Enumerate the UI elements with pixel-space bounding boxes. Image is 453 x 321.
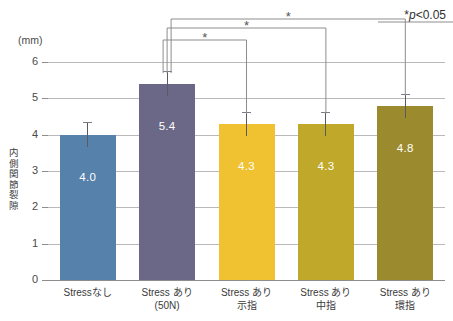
error-bar-stem-2 (167, 71, 168, 96)
y-tick-mark-6 (42, 62, 48, 63)
y-tick-mark-4 (42, 135, 48, 136)
error-bar-cap-1 (83, 122, 92, 123)
x-category-label-2-line1: Stress あり (142, 287, 193, 298)
x-category-label-4-line1: Stress あり (300, 287, 351, 298)
bar-2[interactable]: 5.4 (139, 84, 195, 280)
error-bar-stem-4 (325, 112, 326, 136)
y-tick-mark-2 (42, 207, 48, 208)
x-category-label-3-line1: Stress あり (221, 287, 272, 298)
y-tick-mark-1 (42, 244, 48, 245)
error-bar-cap-5 (401, 94, 410, 95)
bar-value-label-5: 4.8 (377, 142, 433, 154)
error-bar-cap-4 (321, 112, 330, 113)
p-value-note: *p<0.05 (404, 8, 446, 22)
y-tick-label-6: 6 (16, 55, 38, 67)
p-note-symbol: p (409, 8, 416, 22)
error-bar-stem-1 (87, 122, 88, 147)
significance-star-1: * (202, 30, 207, 45)
x-category-label-1-line1: Stressなし (64, 287, 112, 298)
p-note-rest: <0.05 (416, 8, 446, 22)
y-tick-mark-3 (42, 171, 48, 172)
significance-star-3: * (286, 9, 291, 24)
bar-value-label-2: 5.4 (139, 120, 195, 132)
bar-value-label-4: 4.3 (298, 160, 354, 172)
bar-value-label-1: 4.0 (60, 171, 116, 183)
plot-area: 65432104.05.44.34.34.8 (48, 62, 445, 280)
bar-3[interactable]: 4.3 (219, 124, 275, 280)
bar-1[interactable]: 4.0 (60, 135, 116, 280)
error-bar-cap-2 (163, 71, 172, 72)
x-axis-category-labels: StressなしStress あり(50N)Stress あり示指Stress … (48, 286, 445, 321)
error-bar-stem-5 (405, 94, 406, 118)
y-tick-mark-5 (42, 98, 48, 99)
gridline-6 (48, 62, 445, 63)
gridline-0 (48, 280, 445, 281)
significance-star-2: * (244, 18, 249, 33)
error-bar-stem-3 (246, 112, 247, 136)
bar-5[interactable]: 4.8 (377, 106, 433, 280)
x-category-label-5-line1: Stress あり (380, 287, 431, 298)
y-tick-label-1: 1 (16, 237, 38, 249)
bar-chart: (mm) 内側関節裂隙 *p<0.05 65432104.05.44.34.34… (0, 0, 453, 321)
y-tick-label-4: 4 (16, 128, 38, 140)
y-tick-mark-0 (42, 280, 48, 281)
bar-value-label-3: 4.3 (219, 160, 275, 172)
gridline-5 (48, 98, 445, 99)
y-tick-label-0: 0 (16, 273, 38, 285)
error-bar-cap-3 (242, 112, 251, 113)
x-category-label-5-line2: 環指 (355, 299, 453, 312)
y-tick-label-3: 3 (16, 164, 38, 176)
bar-4[interactable]: 4.3 (298, 124, 354, 280)
y-tick-label-2: 2 (16, 200, 38, 212)
y-tick-label-5: 5 (16, 91, 38, 103)
y-axis-unit-label: (mm) (18, 34, 43, 46)
x-category-label-5: Stress あり環指 (355, 286, 453, 312)
